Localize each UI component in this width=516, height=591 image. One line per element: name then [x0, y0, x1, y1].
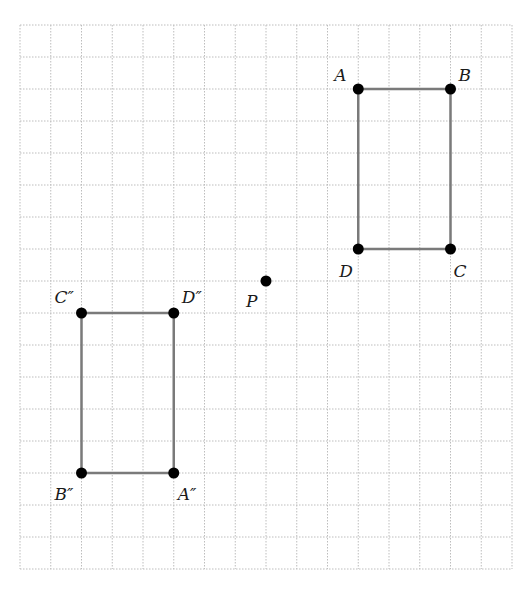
- transformation-diagram: ABCDPC″D″B″A″: [0, 0, 516, 591]
- point-A: [353, 84, 364, 95]
- point-label: A″: [176, 484, 197, 504]
- point-label: A: [332, 65, 346, 85]
- point-D'': [168, 308, 179, 319]
- point-label: D″: [181, 287, 203, 307]
- point-B: [445, 84, 456, 95]
- point-P: [261, 276, 272, 287]
- point-C: [445, 244, 456, 255]
- point-C'': [76, 308, 87, 319]
- point-label: B″: [54, 484, 74, 504]
- rectangle-A''B''C''D'': [82, 313, 174, 473]
- point-label: B: [458, 65, 472, 85]
- point-A'': [168, 468, 179, 479]
- point-label: D: [338, 261, 353, 281]
- point-label: C: [454, 261, 467, 281]
- point-label: C″: [55, 287, 75, 307]
- point-label: P: [245, 291, 258, 311]
- coordinate-grid: [20, 25, 512, 569]
- point-B'': [76, 468, 87, 479]
- rectangle-ABCD: [358, 89, 450, 249]
- point-D: [353, 244, 364, 255]
